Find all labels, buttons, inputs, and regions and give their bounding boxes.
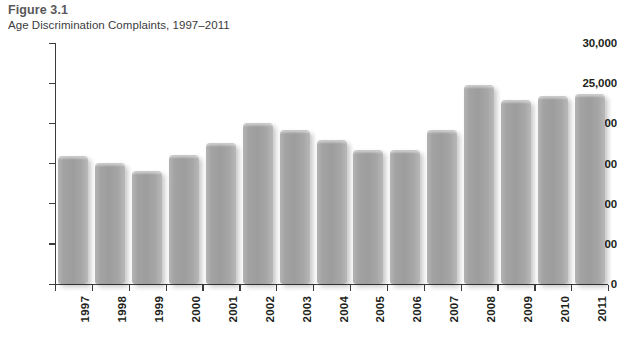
bar-2005: [353, 150, 383, 284]
bar-1998: [95, 163, 125, 285]
x-label-2000: 2000: [190, 296, 202, 339]
x-label-2002: 2002: [264, 296, 276, 339]
x-label-2010: 2010: [559, 296, 571, 339]
x-label-2007: 2007: [448, 296, 460, 339]
bar-2004: [317, 140, 347, 284]
figure-container: Figure 3.1 Age Discrimination Complaints…: [0, 0, 617, 339]
bar-2006: [390, 150, 420, 284]
x-label-2006: 2006: [411, 296, 423, 339]
x-label-1998: 1998: [116, 296, 128, 339]
bar-chart-plot: 05,00010,00015,00020,00025,00030,000 199…: [0, 0, 617, 339]
bar-2009: [501, 100, 531, 284]
bars-layer: [0, 0, 617, 339]
bar-2000: [169, 155, 199, 284]
bar-2010: [538, 96, 568, 284]
bar-2001: [206, 143, 236, 284]
x-label-2001: 2001: [227, 296, 239, 339]
x-label-2009: 2009: [522, 296, 534, 339]
bar-2011: [575, 94, 605, 284]
bar-2007: [427, 130, 457, 284]
bar-1997: [58, 156, 88, 284]
x-label-2004: 2004: [338, 296, 350, 339]
bar-1999: [132, 171, 162, 284]
x-label-1997: 1997: [79, 296, 91, 339]
x-label-2003: 2003: [301, 296, 313, 339]
x-label-1999: 1999: [153, 296, 165, 339]
x-label-2008: 2008: [485, 296, 497, 339]
bar-2003: [280, 130, 310, 284]
bar-2008: [464, 85, 494, 284]
x-label-2011: 2011: [596, 296, 608, 339]
x-label-2005: 2005: [374, 296, 386, 339]
bar-2002: [243, 123, 273, 284]
